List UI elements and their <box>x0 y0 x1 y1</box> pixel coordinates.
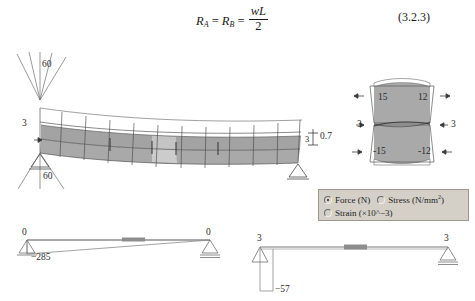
axial-left-end-value: 0 <box>22 228 27 238</box>
result-type-legend-panel[interactable]: Force (N) Stress (N/mm2) Strain (×10^−3) <box>318 189 469 221</box>
radio-label-force: Force (N) <box>335 195 370 205</box>
axial-peak-value: −285 <box>31 253 51 263</box>
right-dimension-label-inner: 3 <box>305 135 309 144</box>
equation-lhs-1-symbol: R <box>196 14 204 28</box>
shear-right-end-value: 3 <box>444 234 449 244</box>
legend-row-2: Strain (×10^−3) <box>324 206 464 219</box>
arrow-bottom-right <box>442 150 452 155</box>
right-dimension-marker <box>308 129 318 145</box>
radio-option-stress[interactable]: Stress (N/mm2) <box>377 194 444 205</box>
equation-number: (3.2.3) <box>398 10 430 25</box>
radio-label-strain: Strain (×10^−3) <box>335 208 393 218</box>
beam-highlight-element-2 <box>152 135 176 150</box>
equation-fraction-numerator: wL <box>249 5 268 18</box>
axial-right-end-value: 0 <box>206 228 211 238</box>
equation-equals-1: = <box>212 14 219 28</box>
equation-lhs-2-subscript: B <box>229 20 234 29</box>
radio-option-strain[interactable]: Strain (×10^−3) <box>324 208 393 218</box>
radio-indicator-force-icon[interactable] <box>324 196 332 204</box>
load-fan-top-label: 60 <box>42 60 52 70</box>
shear-left-end-value: 3 <box>257 234 262 244</box>
load-fan-bottom <box>18 153 64 189</box>
equation-lhs-1-subscript: A <box>204 20 209 29</box>
beam-highlight-element <box>152 148 177 163</box>
radio-indicator-stress-icon[interactable] <box>377 196 385 204</box>
axial-right-support <box>200 240 220 258</box>
figure-canvas: RA = RB = wL 2 (3.2.3) <box>0 0 475 301</box>
equation-fraction-denominator: 2 <box>249 20 268 33</box>
shear-highlight-bar <box>344 245 367 250</box>
cross-section-top-left-value: 15 <box>378 93 388 103</box>
cross-section-mid-left-value: 3 <box>357 120 362 130</box>
right-support-roller <box>287 164 309 179</box>
axial-force-polygon <box>27 240 210 254</box>
radio-option-force[interactable]: Force (N) <box>324 195 370 205</box>
deformed-beam-view <box>0 50 330 190</box>
arrow-bottom-left <box>352 150 362 155</box>
load-fan-bottom-label: 60 <box>43 172 53 182</box>
cross-section-bottom-right-value: -12 <box>418 147 431 157</box>
shear-force-polygon <box>260 249 273 291</box>
arrow-mid-right <box>440 123 448 128</box>
left-reaction-label: 3 <box>22 119 27 129</box>
equation-expression: RA = RB = wL 2 <box>196 5 269 33</box>
cross-section-mid-right-value: 3 <box>451 120 456 130</box>
radio-label-stress: Stress (N/mm2) <box>388 194 444 205</box>
arrow-top-right <box>440 94 450 99</box>
equation-fraction: wL 2 <box>249 5 268 33</box>
cross-section-top-right-value: 12 <box>418 93 428 103</box>
left-reaction-arrow <box>34 138 42 143</box>
equation-row: RA = RB = wL 2 (3.2.3) <box>0 2 475 34</box>
beam-mesh <box>40 108 302 168</box>
legend-row-1: Force (N) Stress (N/mm2) <box>324 193 464 206</box>
shear-peak-value: −57 <box>275 285 290 295</box>
axial-highlight-bar <box>122 238 145 242</box>
shear-right-support <box>438 247 458 265</box>
cross-section-bottom-left-value: -15 <box>373 147 386 157</box>
axial-force-diagram <box>4 228 229 301</box>
equation-equals-2: = <box>238 14 245 28</box>
arrow-top-left <box>354 94 364 99</box>
radio-indicator-strain-icon[interactable] <box>324 209 332 217</box>
